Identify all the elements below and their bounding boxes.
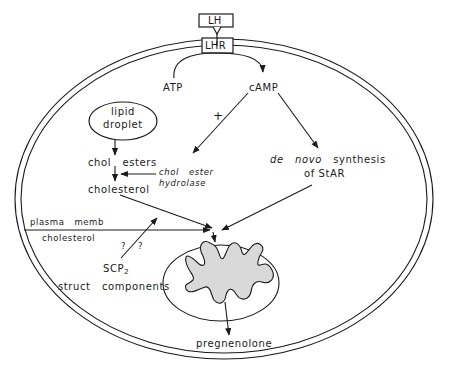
steroidogenesis-diagram: LH LHR ATP cAMP + lipid droplet chol est… bbox=[0, 0, 449, 375]
chol-esters-label: chol esters bbox=[88, 157, 157, 168]
droplet-label: droplet bbox=[96, 119, 150, 130]
star-label-line2: of StAR bbox=[304, 168, 345, 179]
scp-text: SCP bbox=[103, 263, 124, 274]
atp-to-camp-arrow bbox=[174, 53, 263, 78]
plasma-cholesterol-label: cholesterol bbox=[42, 233, 95, 243]
atp-label: ATP bbox=[163, 82, 183, 93]
diagram-graphics bbox=[0, 0, 449, 375]
lh-label: LH bbox=[208, 15, 222, 26]
camp-to-star-arrow bbox=[278, 93, 318, 148]
pregnenolone-label: pregnenolone bbox=[196, 338, 272, 349]
hydrolase-label-line2: hydrolase bbox=[159, 178, 206, 188]
mitochondrion-icon bbox=[163, 232, 279, 321]
lhr-label: LHR bbox=[205, 40, 226, 51]
scp2-arrow bbox=[121, 218, 157, 258]
scp-subscript: 2 bbox=[124, 268, 129, 276]
synthesis-text: synthesis bbox=[333, 154, 385, 165]
hydrolase-label-line1: chol ester bbox=[159, 167, 214, 177]
star-to-mito-arrow bbox=[222, 185, 312, 230]
scp2-label: SCP2 bbox=[103, 263, 129, 278]
lipid-label: lipid bbox=[103, 106, 143, 117]
cholesterol-to-mito-arrow bbox=[120, 195, 212, 228]
camp-label: cAMP bbox=[249, 82, 278, 93]
camp-to-hydrolase-arrow bbox=[193, 93, 248, 153]
plasma-memb-label: plasma memb bbox=[30, 217, 104, 227]
star-label-line1: de novo synthesis bbox=[270, 154, 386, 165]
question-mark-2: ? bbox=[138, 241, 143, 251]
struct-components-label: struct components bbox=[58, 281, 170, 292]
de-novo-text: de novo bbox=[270, 154, 322, 165]
question-mark-1: ? bbox=[121, 241, 126, 251]
plus-sign: + bbox=[213, 111, 224, 122]
cholesterol-label: cholesterol bbox=[88, 184, 150, 195]
